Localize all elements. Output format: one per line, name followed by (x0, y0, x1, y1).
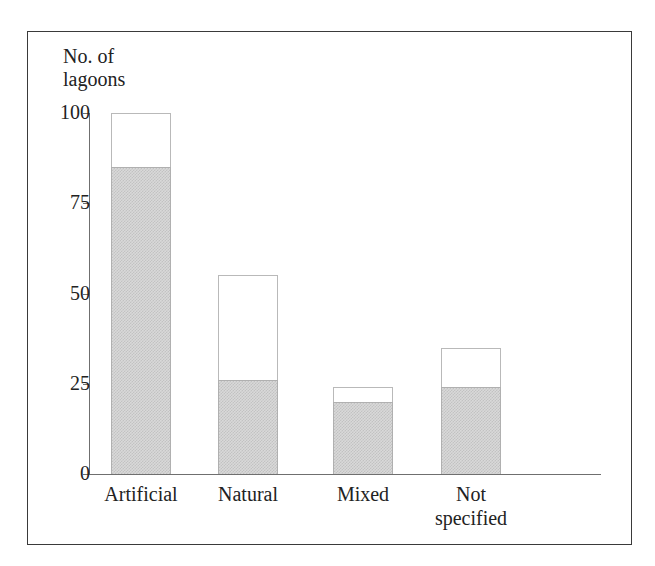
bar-shaded-segment (333, 402, 393, 474)
y-axis-tick-label: 100 (42, 102, 90, 122)
bar (333, 387, 393, 474)
bar (111, 113, 171, 474)
bar (441, 348, 501, 474)
bar-shaded-segment (111, 167, 171, 474)
x-axis-line (89, 474, 601, 475)
y-axis-tick-label: 75 (42, 192, 90, 212)
y-axis-tick-label: 50 (42, 283, 90, 303)
y-axis-tick-label: 25 (42, 373, 90, 393)
y-axis-title: No. of lagoons (63, 45, 193, 91)
x-axis-tick-label: Not specified (406, 482, 536, 530)
figure-frame: No. of lagoons 0255075100 ArtificialNatu… (27, 31, 632, 545)
bar-shaded-segment (441, 387, 501, 474)
x-axis-tick-label: Natural (183, 482, 313, 506)
bar (218, 275, 278, 474)
bar-shaded-segment (218, 380, 278, 474)
y-axis-tick-label: 0 (42, 463, 90, 483)
plot-area: No. of lagoons 0255075100 ArtificialNatu… (28, 32, 633, 546)
